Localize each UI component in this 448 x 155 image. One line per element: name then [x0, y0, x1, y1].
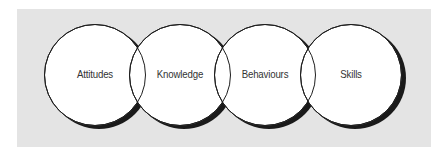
circle-label-skills: Skills — [306, 68, 396, 80]
circle-label-attitudes: Attitudes — [50, 68, 140, 80]
circle-label-knowledge: Knowledge — [135, 68, 225, 80]
circle-label-behaviours: Behaviours — [220, 68, 310, 80]
